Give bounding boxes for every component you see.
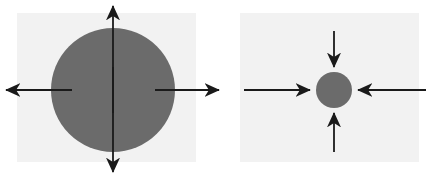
diagram-compression [244, 31, 426, 152]
figure-container [0, 0, 431, 177]
sphere-small [316, 72, 352, 108]
diagram-expansion [6, 6, 219, 172]
diagram-vectors [0, 0, 431, 177]
